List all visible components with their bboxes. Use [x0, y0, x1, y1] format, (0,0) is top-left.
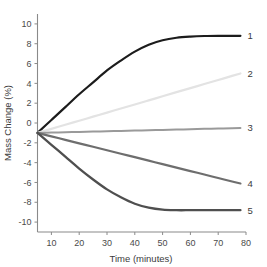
- x-tick-label: 30: [102, 238, 112, 248]
- y-tick-label: 6: [26, 59, 31, 69]
- series-label-3: 3: [247, 122, 252, 133]
- series-line-5: [38, 133, 241, 210]
- x-tick-label: 60: [185, 238, 195, 248]
- x-axis-tick-labels: 1020304050607080: [46, 238, 251, 248]
- y-tick-label: 10: [21, 19, 31, 29]
- y-tick-label: -4: [23, 158, 31, 168]
- y-axis-tick-labels: -10-8-6-4-20246810: [18, 19, 31, 227]
- y-tick-label: -2: [23, 138, 31, 148]
- line-chart: -10-8-6-4-20246810 1020304050607080 1234…: [0, 0, 267, 267]
- series-label-5: 5: [247, 205, 252, 216]
- series-line-1: [38, 36, 241, 133]
- series-label-4: 4: [247, 178, 252, 189]
- x-tick-label: 80: [241, 238, 251, 248]
- series-lines-group: [38, 36, 241, 210]
- y-axis-title: Mass Change (%): [2, 85, 13, 161]
- series-line-3: [38, 128, 241, 133]
- y-tick-label: 0: [26, 118, 31, 128]
- series-endpoint-labels: 12345: [247, 30, 252, 215]
- x-tick-label: 70: [213, 238, 223, 248]
- x-tick-label: 40: [130, 238, 140, 248]
- x-tick-label: 50: [158, 238, 168, 248]
- y-tick-label: -6: [23, 178, 31, 188]
- y-tick-label: 4: [26, 79, 31, 89]
- x-axis-title: Time (minutes): [110, 253, 173, 264]
- series-label-2: 2: [247, 68, 252, 79]
- y-tick-label: -10: [18, 217, 31, 227]
- series-label-1: 1: [247, 30, 252, 41]
- y-tick-label: 2: [26, 98, 31, 108]
- y-tick-label: 8: [26, 39, 31, 49]
- chart-container: -10-8-6-4-20246810 1020304050607080 1234…: [0, 0, 267, 267]
- y-tick-label: -8: [23, 197, 31, 207]
- x-tick-label: 10: [46, 238, 56, 248]
- x-tick-label: 20: [74, 238, 84, 248]
